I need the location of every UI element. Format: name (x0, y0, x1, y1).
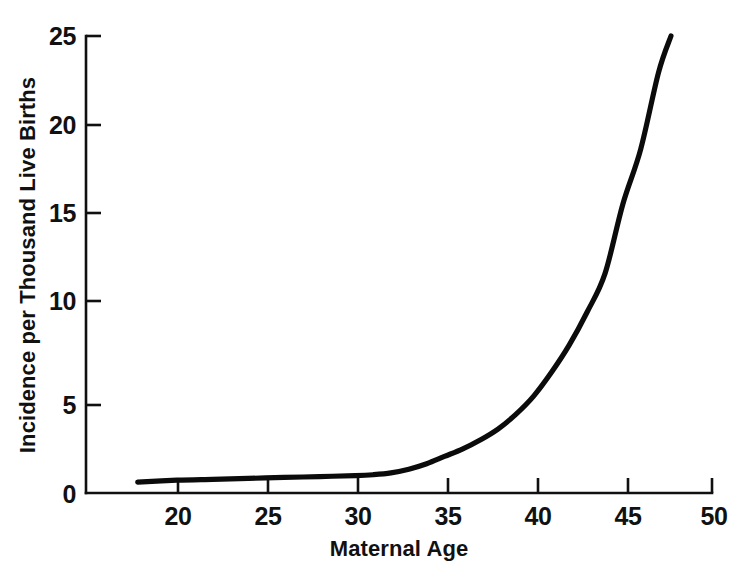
y-axis-title: Incidence per Thousand Live Births (15, 77, 40, 453)
y-tick-label-5: 5 (62, 391, 76, 419)
y-tick-label-15: 15 (49, 199, 77, 227)
chart-plot-area: 25 20 15 10 5 0 20 25 30 35 40 45 50 Mat… (0, 0, 744, 569)
x-tick-label-45: 45 (614, 502, 642, 530)
x-tick-label-50: 50 (700, 502, 727, 530)
x-axis-title: Maternal Age (330, 536, 469, 561)
x-tick-label-40: 40 (524, 502, 551, 530)
x-tick-label-20: 20 (164, 502, 191, 530)
y-tick-label-0: 0 (62, 480, 76, 508)
chart-figure: 25 20 15 10 5 0 20 25 30 35 40 45 50 Mat… (0, 0, 744, 569)
y-tick-label-10: 10 (49, 287, 76, 315)
x-tick-label-25: 25 (254, 502, 282, 530)
x-tick-label-35: 35 (434, 502, 462, 530)
y-tick-label-25: 25 (49, 22, 77, 50)
y-tick-label-20: 20 (49, 111, 76, 139)
x-tick-label-30: 30 (344, 502, 371, 530)
chart-background (0, 0, 744, 569)
